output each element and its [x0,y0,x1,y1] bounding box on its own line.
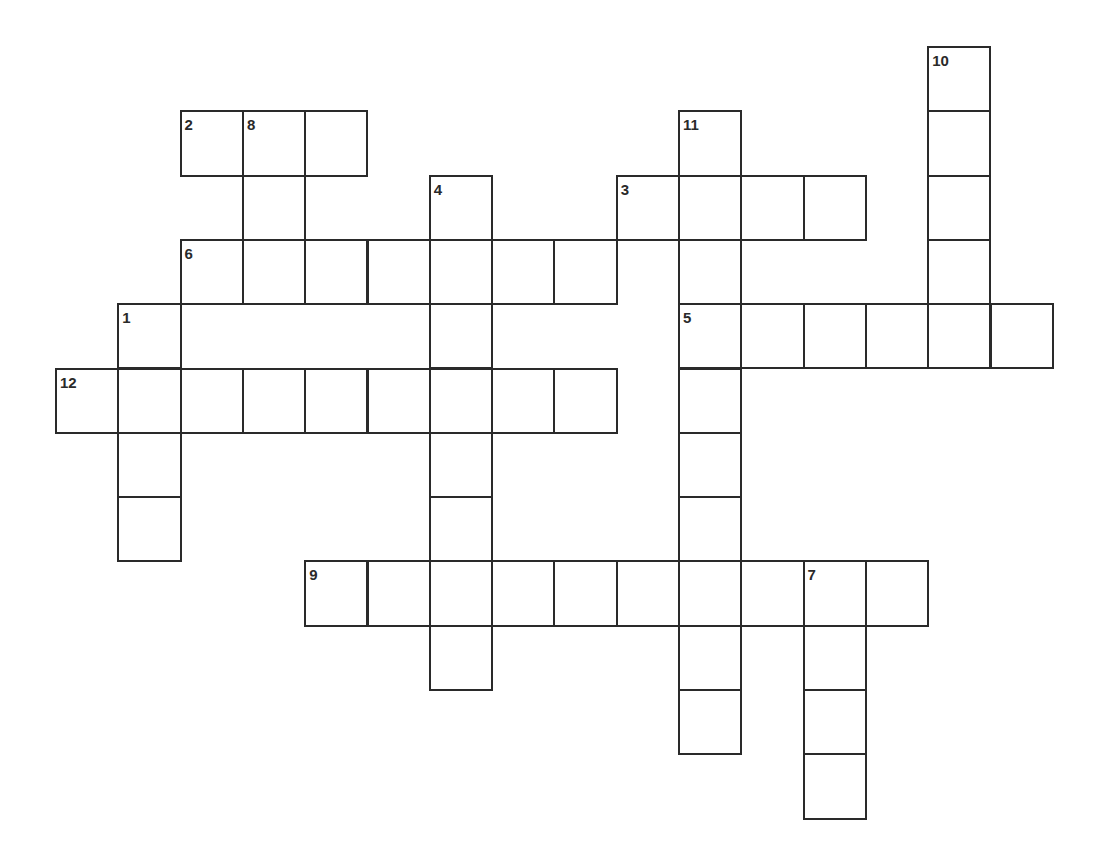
crossword-cell[interactable] [367,368,431,434]
letter-input[interactable] [805,177,865,239]
letter-input[interactable] [493,241,553,303]
letter-input[interactable] [555,370,615,432]
letter-input[interactable] [431,305,491,367]
crossword-cell[interactable]: 3 [616,175,680,241]
crossword-cell[interactable] [117,432,181,498]
letter-input[interactable] [431,627,491,689]
crossword-cell[interactable]: 1 [117,303,181,369]
crossword-cell[interactable] [429,239,493,305]
crossword-cell[interactable] [117,368,181,434]
crossword-cell[interactable] [242,175,306,241]
letter-input[interactable] [680,498,740,560]
letter-input[interactable] [369,241,429,303]
crossword-cell[interactable] [678,432,742,498]
crossword-cell[interactable] [429,560,493,626]
crossword-cell[interactable] [553,560,617,626]
crossword-cell[interactable] [678,239,742,305]
crossword-cell[interactable] [865,560,929,626]
crossword-cell[interactable] [803,625,867,691]
crossword-cell[interactable] [803,175,867,241]
crossword-cell[interactable] [491,368,555,434]
letter-input[interactable] [805,691,865,753]
letter-input[interactable] [742,305,802,367]
crossword-cell[interactable] [803,303,867,369]
letter-input[interactable] [431,177,491,239]
crossword-cell[interactable] [990,303,1054,369]
letter-input[interactable] [493,562,553,624]
crossword-cell[interactable] [803,689,867,755]
crossword-cell[interactable] [740,303,804,369]
crossword-cell[interactable] [429,625,493,691]
crossword-cell[interactable] [491,239,555,305]
letter-input[interactable] [431,498,491,560]
crossword-cell[interactable] [740,560,804,626]
crossword-cell[interactable] [491,560,555,626]
crossword-cell[interactable]: 12 [55,368,119,434]
letter-input[interactable] [119,370,179,432]
letter-input[interactable] [929,48,989,110]
letter-input[interactable] [493,370,553,432]
crossword-cell[interactable]: 4 [429,175,493,241]
crossword-cell[interactable]: 8 [242,110,306,176]
letter-input[interactable] [680,177,740,239]
crossword-cell[interactable] [429,432,493,498]
crossword-cell[interactable]: 10 [927,46,991,112]
letter-input[interactable] [680,370,740,432]
crossword-cell[interactable] [740,175,804,241]
letter-input[interactable] [680,305,740,367]
letter-input[interactable] [306,562,366,624]
letter-input[interactable] [618,177,678,239]
crossword-cell[interactable] [678,689,742,755]
crossword-cell[interactable] [304,239,368,305]
crossword-cell[interactable] [927,239,991,305]
letter-input[interactable] [555,241,615,303]
letter-input[interactable] [867,562,927,624]
letter-input[interactable] [182,112,242,174]
crossword-cell[interactable] [553,368,617,434]
crossword-cell[interactable] [304,110,368,176]
crossword-cell[interactable]: 5 [678,303,742,369]
crossword-cell[interactable] [553,239,617,305]
crossword-cell[interactable] [678,368,742,434]
letter-input[interactable] [244,177,304,239]
letter-input[interactable] [182,241,242,303]
letter-input[interactable] [119,498,179,560]
crossword-cell[interactable] [367,239,431,305]
crossword-cell[interactable] [678,496,742,562]
letter-input[interactable] [929,305,989,367]
letter-input[interactable] [805,755,865,817]
letter-input[interactable] [742,177,802,239]
letter-input[interactable] [929,241,989,303]
letter-input[interactable] [306,370,366,432]
letter-input[interactable] [680,627,740,689]
letter-input[interactable] [680,691,740,753]
letter-input[interactable] [680,112,740,174]
crossword-cell[interactable] [678,560,742,626]
letter-input[interactable] [680,241,740,303]
crossword-cell[interactable] [865,303,929,369]
letter-input[interactable] [929,177,989,239]
letter-input[interactable] [244,241,304,303]
letter-input[interactable] [618,562,678,624]
crossword-cell[interactable] [803,753,867,819]
crossword-cell[interactable] [429,496,493,562]
crossword-cell[interactable] [117,496,181,562]
crossword-cell[interactable]: 7 [803,560,867,626]
crossword-cell[interactable]: 11 [678,110,742,176]
crossword-cell[interactable]: 6 [180,239,244,305]
crossword-cell[interactable] [616,560,680,626]
crossword-cell[interactable] [367,560,431,626]
letter-input[interactable] [306,112,366,174]
letter-input[interactable] [306,241,366,303]
letter-input[interactable] [431,370,491,432]
letter-input[interactable] [805,627,865,689]
letter-input[interactable] [119,434,179,496]
crossword-cell[interactable] [180,368,244,434]
letter-input[interactable] [57,370,117,432]
letter-input[interactable] [929,112,989,174]
crossword-cell[interactable] [304,368,368,434]
letter-input[interactable] [431,241,491,303]
crossword-cell[interactable] [927,110,991,176]
letter-input[interactable] [680,562,740,624]
crossword-cell[interactable] [429,368,493,434]
